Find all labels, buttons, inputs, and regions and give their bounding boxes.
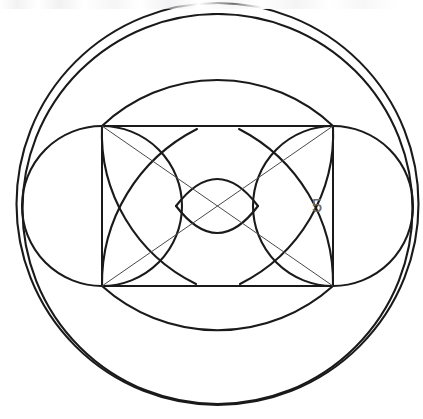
dimension-label-5: 5 bbox=[312, 195, 323, 216]
top-inner-arc bbox=[102, 80, 333, 126]
bottom-inner-arc bbox=[102, 286, 333, 330]
geometry-figure: 5 bbox=[0, 0, 423, 419]
geometry-canvas: 5 bbox=[0, 0, 423, 419]
lens-upper-arc bbox=[176, 179, 258, 206]
lens-lower-arc bbox=[176, 206, 258, 233]
top-outer-circle bbox=[23, 14, 413, 404]
